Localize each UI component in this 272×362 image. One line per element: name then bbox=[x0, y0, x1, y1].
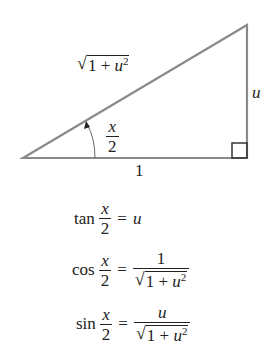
var-u: u bbox=[172, 272, 181, 291]
equals-sign: = bbox=[117, 209, 127, 229]
radical-sign: √ bbox=[77, 54, 87, 72]
rhs-numerator: 1 bbox=[155, 250, 168, 268]
right-triangle-figure bbox=[0, 0, 272, 180]
exponent: 2 bbox=[123, 55, 129, 67]
radicand-one: 1 bbox=[88, 56, 97, 75]
equals-sign: = bbox=[118, 314, 128, 334]
angle-label: x 2 bbox=[106, 118, 119, 155]
radicand: 1 + u2 bbox=[87, 55, 130, 74]
opposite-side-label: u bbox=[252, 84, 261, 101]
fn-name: cos bbox=[72, 260, 95, 280]
plus-sign: + bbox=[160, 326, 170, 345]
var-u: u bbox=[114, 56, 123, 75]
radicand-one: 1 bbox=[147, 326, 156, 345]
plus-sign: + bbox=[158, 272, 168, 291]
fn-name: tan bbox=[74, 209, 95, 229]
radicand-one: 1 bbox=[146, 272, 155, 291]
arg-numerator: x bbox=[99, 252, 111, 270]
angle-arc bbox=[87, 124, 95, 158]
right-angle-marker bbox=[232, 143, 247, 158]
triangle-outline bbox=[23, 25, 247, 158]
equals-sign: = bbox=[117, 260, 127, 280]
rhs: u bbox=[133, 209, 142, 229]
var-u: u bbox=[173, 326, 182, 345]
equation-cos: cos x2 = 1 √1 + u2 bbox=[72, 250, 189, 290]
adjacent-side-label: 1 bbox=[135, 162, 144, 179]
rhs-denominator: √1 + u2 bbox=[133, 268, 189, 290]
rhs-numerator: u bbox=[156, 304, 169, 322]
exponent: 2 bbox=[181, 271, 187, 283]
arg-numerator: x bbox=[100, 306, 112, 324]
plus-sign: + bbox=[101, 56, 111, 75]
exponent: 2 bbox=[182, 325, 188, 337]
equation-tan: tan x2 = u bbox=[74, 200, 141, 237]
arg-numerator: x bbox=[99, 200, 111, 218]
radical-sign: √ bbox=[135, 270, 145, 288]
fn-name: sin bbox=[76, 314, 96, 334]
angle-denominator: 2 bbox=[106, 136, 119, 155]
hypotenuse-label: √ 1 + u2 bbox=[77, 54, 129, 74]
rhs-denominator: √1 + u2 bbox=[134, 322, 190, 344]
angle-numerator: x bbox=[106, 118, 118, 136]
arg-denominator: 2 bbox=[99, 270, 112, 289]
equation-sin: sin x2 = u √1 + u2 bbox=[76, 304, 190, 344]
arg-denominator: 2 bbox=[100, 324, 113, 343]
radical-sign: √ bbox=[136, 324, 146, 342]
arg-denominator: 2 bbox=[99, 218, 112, 237]
